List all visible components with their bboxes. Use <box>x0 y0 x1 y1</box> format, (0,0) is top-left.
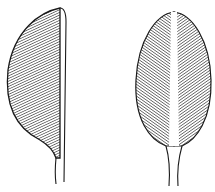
leaf-illustration <box>0 0 215 192</box>
whole-leaf <box>136 12 211 186</box>
half-leaf <box>7 8 66 184</box>
